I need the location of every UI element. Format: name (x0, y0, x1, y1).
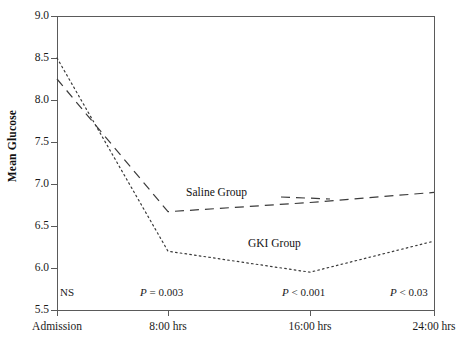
saline-legend-swatch (281, 197, 330, 199)
x-tick-admission (57, 311, 58, 316)
y-tick-label-8.0: 8.0 (3, 94, 49, 106)
y-tick-label-6.5: 6.5 (3, 220, 49, 232)
gki-group-label: GKI Group (248, 237, 301, 249)
y-tick-label-8.5: 8.5 (3, 52, 49, 64)
y-tick-label-7.0: 7.0 (3, 178, 49, 190)
p-symbol-24h: P (390, 286, 397, 298)
y-tick-7.5 (51, 142, 57, 143)
p-symbol-16h: P (282, 286, 289, 298)
saline-group-label: Saline Group (186, 186, 247, 198)
significance-16h: P < 0.001 (282, 286, 325, 298)
p-symbol-8h: P (140, 286, 147, 298)
significance-24h: P < 0.03 (390, 286, 428, 298)
y-tick-9.0 (51, 16, 57, 17)
y-tick-7.0 (51, 184, 57, 185)
x-tick-8h (168, 311, 169, 316)
x-tick-label-16h: 16:00 hrs (260, 320, 360, 332)
p-value-16h: < 0.001 (289, 286, 325, 298)
significance-8h: P = 0.003 (140, 286, 183, 298)
y-tick-label-6.0: 6.0 (3, 262, 49, 274)
y-tick-label-7.5: 7.5 (3, 136, 49, 148)
x-tick-label-24h: 24:00 hrs (384, 320, 463, 332)
p-value-8h: = 0.003 (147, 286, 183, 298)
x-axis-line (57, 310, 435, 311)
p-value-24h: < 0.03 (397, 286, 428, 298)
y-tick-6.0 (51, 268, 57, 269)
y-tick-8.5 (51, 58, 57, 59)
x-tick-label-admission: Admission (7, 320, 107, 332)
y-axis-line (57, 16, 58, 311)
x-tick-16h (310, 311, 311, 316)
y-tick-label-9.0: 9.0 (3, 10, 49, 22)
x-tick-label-8h: 8:00 hrs (118, 320, 218, 332)
significance-admission: NS (60, 286, 74, 298)
plot-top-border (57, 16, 435, 17)
y-tick-6.5 (51, 226, 57, 227)
chart-figure: Mean Glucose 5.5 6.0 6.5 7.0 7.5 8.0 8.5… (0, 0, 463, 344)
x-tick-24h (434, 311, 435, 316)
y-tick-label-5.5: 5.5 (3, 304, 49, 316)
plot-right-border (434, 16, 435, 311)
gki-group-line (57, 58, 434, 272)
y-tick-8.0 (51, 100, 57, 101)
